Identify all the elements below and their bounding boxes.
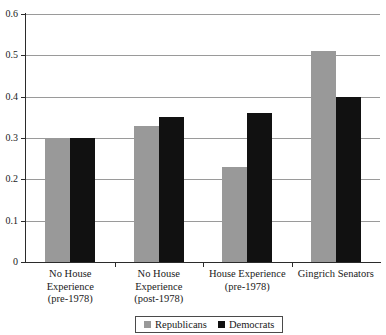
bar-republicans [222,167,247,262]
category-label-line: Experience [109,281,210,294]
legend-item-rep: Republicans [144,319,207,330]
bar-democrats [336,97,361,262]
category-label-line: (pre-1978) [20,293,121,306]
x-axis-category-label: House Experience(pre-1978) [197,268,298,293]
category-label-line: (pre-1978) [197,281,298,294]
category-label-line: Experience [20,281,121,294]
y-tick-label: 0 [13,257,18,267]
bar-democrats [159,117,184,262]
bar-republicans [45,138,70,262]
bar-republicans [134,126,159,262]
x-axis-separator-tick [115,262,116,267]
x-axis-separator-tick [203,262,204,267]
chart-legend: RepublicansDemocrats [135,316,283,333]
y-tick-label: 0.2 [6,174,19,184]
legend-swatch-dem [218,321,225,328]
x-axis-category-label: No HouseExperience(post-1978) [109,268,210,306]
legend-swatch-rep [144,321,151,328]
plot-area [26,14,380,262]
y-tick-mark [21,262,26,263]
gridline [26,14,380,15]
category-label-line: No House [109,268,210,281]
category-label-line: No House [20,268,121,281]
x-axis-category-label: Gingrich Senators [286,268,386,281]
category-label-line: Gingrich Senators [286,268,386,281]
y-tick-label: 0.6 [6,9,19,19]
y-tick-label: 0.1 [6,216,19,226]
y-tick-label: 0.4 [6,92,19,102]
bar-republicans [311,51,336,262]
legend-label: Democrats [229,319,274,330]
bar-democrats [247,113,272,262]
category-label-line: House Experience [197,268,298,281]
bar-chart: 00.10.20.30.40.50.6 No HouseExperience(p… [0,0,386,335]
bar-democrats [70,138,95,262]
y-tick-label: 0.3 [6,133,19,143]
x-axis-separator-tick [292,262,293,267]
legend-item-dem: Democrats [218,319,274,330]
y-tick-label: 0.5 [6,50,19,60]
x-axis-category-label: No HouseExperience(pre-1978) [20,268,121,306]
category-label-line: (post-1978) [109,293,210,306]
legend-label: Republicans [155,319,207,330]
